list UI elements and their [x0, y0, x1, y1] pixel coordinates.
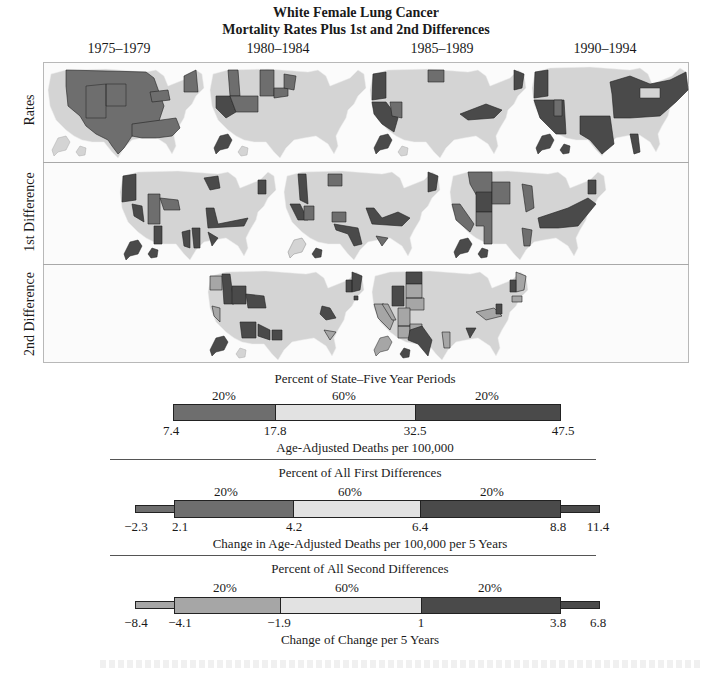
map-2nd-diff-2	[370, 268, 532, 360]
legend-3-tick: 1	[396, 615, 446, 631]
map-1st-diff-3	[448, 168, 610, 260]
legend-1-tick: 17.8	[250, 423, 300, 439]
legend-3-pct-high: 20%	[460, 580, 520, 596]
column-label-1985: 1985–1989	[372, 41, 512, 57]
legend-1-title: Percent of State–Five Year Periods	[150, 371, 580, 387]
legend-1-pct-low: 20%	[194, 388, 254, 404]
legend-2-pct-high: 20%	[462, 484, 522, 500]
legend-2-whisker-high	[560, 505, 600, 513]
legend-2-pct-mid: 60%	[320, 484, 380, 500]
row-divider	[43, 162, 689, 163]
legend-1-pct-high: 20%	[457, 388, 517, 404]
legend-1-bar-high	[415, 404, 561, 421]
legend-3-pct-mid: 60%	[317, 580, 377, 596]
map-2nd-diff-1	[206, 268, 368, 360]
faded-caption	[100, 660, 700, 668]
legend-1-pct-mid: 60%	[314, 388, 374, 404]
column-label-1975: 1975–1979	[49, 41, 189, 57]
legend-3-title: Percent of All Second Differences	[110, 561, 610, 577]
legend-2-whisker-low	[135, 505, 175, 513]
column-label-1990: 1990–1994	[535, 41, 675, 57]
map-rates-1980	[208, 66, 370, 158]
legend-3-axis-label: Change of Change per 5 Years	[110, 632, 610, 648]
legend-divider	[110, 555, 596, 556]
legend-3-tick: −8.4	[111, 615, 161, 631]
legend-1-bar-mid	[275, 404, 416, 421]
legend-divider	[110, 459, 596, 460]
legend-3-bar-high	[421, 597, 561, 614]
legend-2-bar-high	[420, 500, 561, 518]
legend-3-tick: −4.1	[155, 615, 205, 631]
legend-3-bar-low	[174, 597, 281, 614]
chart-title-line2: Mortality Rates Plus 1st and 2nd Differe…	[0, 22, 712, 38]
row-label-1st-difference: 1st Difference	[22, 162, 38, 262]
map-rates-1975	[46, 66, 208, 158]
legend-3-whisker-high	[560, 601, 600, 609]
legend-1-bar-low	[173, 404, 276, 421]
legend-3-pct-low: 20%	[195, 580, 255, 596]
row-label-2nd-difference: 2nd Difference	[22, 264, 38, 364]
map-1st-diff-2	[282, 168, 444, 260]
map-rates-1985	[368, 66, 530, 158]
column-label-1980: 1980–1984	[208, 41, 348, 57]
legend-2-pct-low: 20%	[196, 484, 256, 500]
row-divider	[43, 264, 689, 265]
legend-1-tick: 47.5	[538, 423, 588, 439]
map-rates-1990	[530, 64, 692, 158]
map-1st-diff-1	[118, 168, 280, 260]
legend-3-tick: 6.8	[573, 615, 623, 631]
legend-2-tick: 11.4	[573, 519, 623, 535]
legend-3-bar-mid	[280, 597, 422, 614]
legend-2-bar-low	[174, 500, 294, 518]
legend-2-tick: 4.2	[269, 519, 319, 535]
legend-2-tick: 2.1	[155, 519, 205, 535]
legend-3-tick: −1.9	[254, 615, 304, 631]
legend-1-tick: 32.5	[390, 423, 440, 439]
legend-1-axis-label: Age-Adjusted Deaths per 100,000	[150, 440, 580, 456]
legend-2-bar-mid	[293, 500, 421, 518]
legend-1-tick: 7.4	[146, 423, 196, 439]
legend-2-title: Percent of All First Differences	[110, 465, 610, 481]
legend-2-axis-label: Change in Age-Adjusted Deaths per 100,00…	[110, 536, 610, 552]
legend-3-whisker-low	[135, 601, 175, 609]
legend-2-tick: 6.4	[395, 519, 445, 535]
legend-2-tick: −2.3	[111, 519, 161, 535]
chart-title-line1: White Female Lung Cancer	[0, 5, 712, 21]
row-label-rates: Rates	[22, 60, 38, 160]
